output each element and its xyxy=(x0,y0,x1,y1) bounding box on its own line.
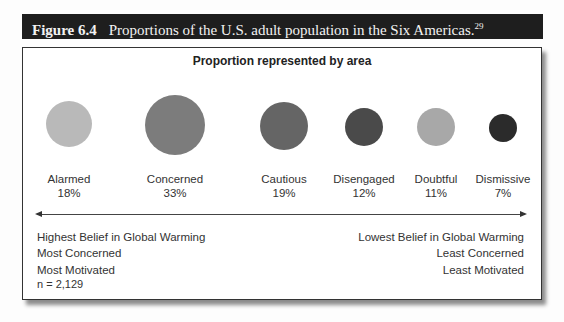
chart-panel: Proportion represented by area Alarmed18… xyxy=(22,47,542,300)
segment-percent: 33% xyxy=(130,186,220,200)
right-text-line: Least Concerned xyxy=(358,245,524,261)
left-text-line: Most Concerned xyxy=(37,245,205,261)
segment-percent: 19% xyxy=(239,186,329,200)
chart-title: Proportion represented by area xyxy=(23,54,541,68)
left-axis-description: Highest Belief in Global Warming Most Co… xyxy=(37,229,205,278)
sample-size: n = 2,129 xyxy=(37,278,83,290)
segment-label-cautious: Cautious19% xyxy=(239,172,329,200)
right-text-line: Least Motivated xyxy=(358,262,524,278)
segment-label-concerned: Concerned33% xyxy=(130,172,220,200)
segment-circle-doubtful xyxy=(417,108,455,146)
left-text-line: Most Motivated xyxy=(37,262,205,278)
segment-label-alarmed: Alarmed18% xyxy=(24,172,114,200)
double-arrow-axis xyxy=(37,214,525,215)
left-text-line: Highest Belief in Global Warming xyxy=(37,229,205,245)
segment-name: Alarmed xyxy=(24,172,114,186)
segment-name: Dismissive xyxy=(458,172,548,186)
segment-circle-dismissive xyxy=(489,114,517,142)
footnote-marker: 29 xyxy=(475,21,484,31)
figure-caption: Proportions of the U.S. adult population… xyxy=(109,22,475,38)
segment-name: Concerned xyxy=(130,172,220,186)
segment-label-dismissive: Dismissive7% xyxy=(458,172,548,200)
figure-number: Figure 6.4 xyxy=(32,22,97,38)
segment-percent: 18% xyxy=(24,186,114,200)
segment-circle-disengaged xyxy=(345,108,383,146)
figure-caption-bar: Figure 6.4Proportions of the U.S. adult … xyxy=(22,14,543,39)
segment-circle-cautious xyxy=(260,102,308,150)
segment-percent: 7% xyxy=(458,186,548,200)
right-axis-description: Lowest Belief in Global Warming Least Co… xyxy=(358,229,524,278)
segment-name: Cautious xyxy=(239,172,329,186)
segment-circle-concerned xyxy=(145,95,205,155)
segment-circle-alarmed xyxy=(46,101,92,147)
right-text-line: Lowest Belief in Global Warming xyxy=(358,229,524,245)
